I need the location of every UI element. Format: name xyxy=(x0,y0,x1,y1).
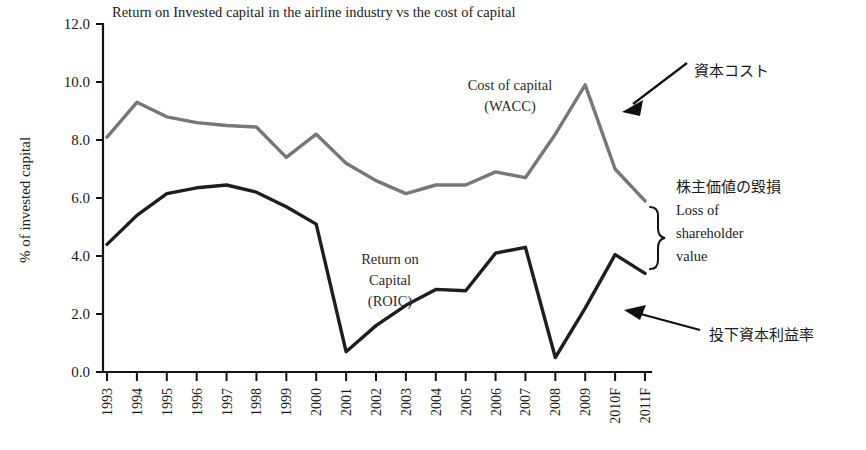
roic-label: Return on xyxy=(361,251,419,267)
data-series-group xyxy=(107,85,645,358)
x-tick-label: 2007 xyxy=(518,388,533,416)
x-tick-label: 1997 xyxy=(220,388,235,416)
roic-label: (ROIC) xyxy=(368,293,412,310)
chart-title: Return on Invested capital in the airlin… xyxy=(112,4,515,20)
x-tick-label: 2001 xyxy=(339,388,354,416)
x-tick-label: 1996 xyxy=(190,388,205,416)
cost-of-capital-callout: 資本コスト xyxy=(622,62,769,116)
x-tick-label: 2002 xyxy=(369,388,384,416)
y-tick-label: 2.0 xyxy=(71,306,90,322)
roic-arrow-line xyxy=(637,313,700,330)
cost-of-capital-callout-text: 資本コスト xyxy=(694,62,769,80)
x-tick-label: 1994 xyxy=(130,388,145,416)
shareholder-loss-brace xyxy=(650,207,665,269)
inline-series-labels: Cost of capital(WACC)Return onCapital(RO… xyxy=(361,77,552,310)
x-tick-label: 2005 xyxy=(459,388,474,416)
x-tick-label: 1993 xyxy=(100,388,115,416)
x-tick-label: 2010F xyxy=(608,388,623,424)
wacc-label: Cost of capital xyxy=(468,77,553,93)
x-tick-label: 2009 xyxy=(578,388,593,416)
y-axis-title: % of invested capital xyxy=(17,137,33,263)
chart-figure: Return on Invested capital in the airlin… xyxy=(0,0,866,450)
shareholder-loss-en-line3: value xyxy=(676,248,707,264)
roic-callout: 投下資本利益率 xyxy=(624,305,814,344)
x-tick-label: 1999 xyxy=(279,388,294,416)
x-tick-label: 2004 xyxy=(429,388,444,416)
roic-label: Capital xyxy=(369,272,411,288)
x-tick-label: 1998 xyxy=(249,388,264,416)
x-tick-label: 2008 xyxy=(548,388,563,416)
y-tick-label: 4.0 xyxy=(71,248,90,264)
roic-arrow-head xyxy=(624,305,646,320)
y-tick-label: 0.0 xyxy=(71,364,90,380)
y-tick-label: 12.0 xyxy=(64,16,90,32)
x-tick-label: 2006 xyxy=(489,388,504,416)
series-line xyxy=(107,85,645,201)
cost-of-capital-arrow-head xyxy=(622,100,643,116)
cost-of-capital-arrow-line xyxy=(633,63,687,104)
x-tick-label: 2000 xyxy=(309,388,324,416)
x-tick-label: 1995 xyxy=(160,388,175,416)
wacc-label: (WACC) xyxy=(484,98,536,115)
y-tick-label: 10.0 xyxy=(64,74,90,90)
shareholder-loss-callout: 株主価値の毀損 Loss of shareholder value xyxy=(650,178,781,269)
shareholder-loss-jp-text: 株主価値の毀損 xyxy=(676,178,781,196)
x-axis-ticks: 1993199419951996199719981999200020012002… xyxy=(100,372,653,424)
roic-callout-text: 投下資本利益率 xyxy=(709,326,814,344)
roic-vs-wacc-line-chart: Return on Invested capital in the airlin… xyxy=(0,0,866,450)
y-axis-ticks: 0.02.04.06.08.010.012.0 xyxy=(64,16,103,380)
x-tick-label: 2011F xyxy=(638,388,653,423)
y-tick-label: 6.0 xyxy=(71,190,90,206)
shareholder-loss-en-line1: Loss of xyxy=(676,202,719,218)
x-tick-label: 2003 xyxy=(399,388,414,416)
shareholder-loss-en-line2: shareholder xyxy=(676,225,744,241)
y-tick-label: 8.0 xyxy=(71,132,90,148)
